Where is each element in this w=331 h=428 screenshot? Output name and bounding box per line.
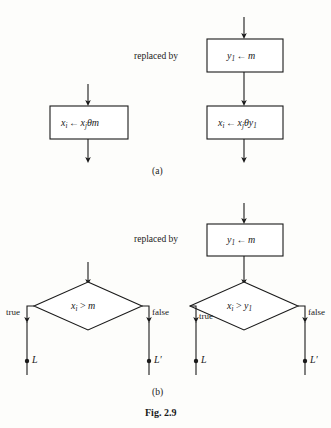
part-a-right-flow [207,17,283,160]
part-b-right-true-target-dot [194,359,198,363]
part-a-left-box-expression: xi←xjθm [61,118,99,130]
part-b-left-false-target-dot [147,359,151,363]
expr-operand: m [248,234,255,245]
part-b-right-true-label: true [199,312,213,321]
part-b-right-false-target-label: L′ [310,355,318,365]
cond-rhs: m [88,300,95,311]
assign-arrow-icon: ← [224,117,237,128]
part-b-left-decision-expression: xi>m [71,301,95,313]
part-b-replaced-by-label: replaced by [134,235,178,245]
part-b-left-true-target-dot [25,359,29,363]
part-a-right-box-1-expression: y1←m [227,51,255,63]
part-b-left-false-label: false [152,308,169,317]
flowchart-figure [0,0,331,428]
part-b-left-true-branch-line [27,306,34,320]
part-b-right-box-1-expression: y1←m [227,235,255,247]
assign-arrow-icon: ← [235,234,248,245]
part-b-right-false-branch-line [298,306,305,320]
expr-operand: m [248,50,255,61]
figure-caption: Fig. 2.9 [145,408,176,418]
cond-rhs-sub: 1 [249,305,253,313]
part-b-left-false-target-label: L′ [154,355,162,365]
part-a-right-box-2-expression: xi←xjθy1 [218,118,257,130]
part-b-left-true-target-label: L [32,355,38,365]
greater-than-icon: > [233,300,244,311]
part-b-right-false-target-dot [303,359,307,363]
part-b-label: (b) [152,388,163,398]
figure-page: xi←xjθm replaced by y1←m xi←xjθy1 (a) re… [0,0,331,428]
part-b-left-false-branch-line [142,306,149,320]
expr-operand: m [92,117,99,128]
expr-operand-sub: 1 [253,122,257,130]
assign-arrow-icon: ← [67,117,80,128]
greater-than-icon: > [77,300,88,311]
part-b-right-false-label: false [308,308,325,317]
part-b-right-true-target-label: L [201,355,207,365]
part-a-replaced-by-label: replaced by [134,52,178,62]
part-b-left-flow [25,262,151,375]
part-a-label: (a) [152,167,163,177]
part-b-right-flow [190,203,307,375]
assign-arrow-icon: ← [235,50,248,61]
part-b-right-decision-expression: xi>y1 [227,301,252,313]
part-b-left-true-label: true [6,308,20,317]
